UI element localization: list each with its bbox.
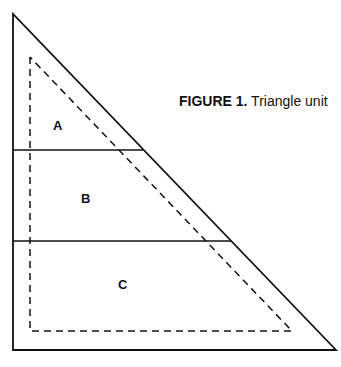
- figure-caption: FIGURE 1. Triangle unit: [179, 93, 328, 109]
- figure-number: FIGURE 1.: [179, 93, 247, 109]
- region-label-b: B: [81, 191, 90, 206]
- region-label-c: C: [118, 277, 127, 292]
- outer-triangle: [13, 14, 336, 350]
- region-label-a: A: [53, 118, 62, 133]
- triangle-unit-diagram: [0, 0, 341, 367]
- figure-title: Triangle unit: [247, 93, 327, 109]
